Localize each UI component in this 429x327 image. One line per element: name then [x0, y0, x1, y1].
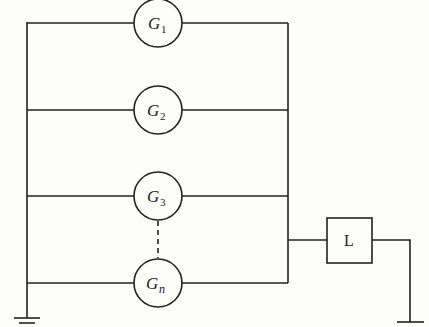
generator-branch-2: G 2: [27, 86, 288, 134]
generator-subscript: n: [159, 282, 165, 296]
generator-label: G: [147, 187, 159, 206]
generator-branch-n: G n: [27, 259, 288, 307]
generator-label: G: [147, 101, 159, 120]
ground-icon-left: [14, 318, 40, 323]
generator-branch-1: G 1: [27, 0, 288, 47]
generator-branch-3: G 3: [27, 172, 288, 220]
generator-subscript: 3: [160, 196, 166, 208]
generator-subscript: 1: [161, 23, 167, 35]
generator-subscript: 2: [160, 110, 166, 122]
generator-label: G: [148, 14, 160, 33]
load-label: L: [344, 232, 354, 249]
circuit-diagram: G 1 G 2 G 3 G n L: [0, 0, 429, 327]
generator-label: G: [146, 274, 158, 293]
load-return-wire: [372, 240, 410, 322]
